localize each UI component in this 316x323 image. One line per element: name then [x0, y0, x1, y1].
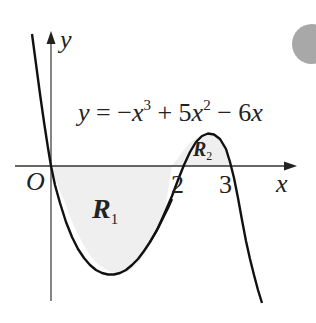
y-axis-arrow-icon	[47, 31, 56, 44]
origin-label: O	[26, 167, 45, 196]
tick-label-3: 3	[219, 170, 232, 199]
tick-label-2: 2	[171, 170, 184, 199]
equation-label: y = −x3 + 5x2 − 6x	[75, 97, 263, 127]
x-axis-label: x	[275, 169, 288, 198]
decorative-circle	[292, 24, 316, 64]
graph-figure: y x O 2 3 y = −x3 + 5x2 − 6x R1 R2	[0, 0, 316, 323]
y-axis-label: y	[57, 25, 72, 54]
